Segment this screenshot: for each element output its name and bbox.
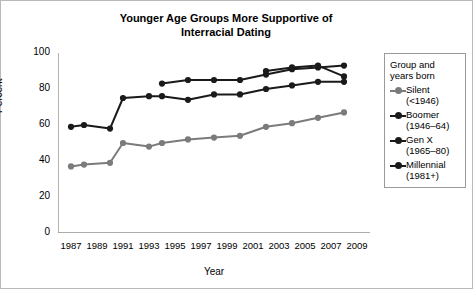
data-point	[237, 91, 243, 97]
legend-label: Silent(<1946)	[406, 84, 439, 106]
y-axis-tick-label: 60	[24, 118, 50, 129]
legend-label: Gen X(1965–80)	[406, 134, 449, 156]
data-point	[185, 136, 191, 142]
legend-marker-icon	[390, 135, 406, 146]
data-point	[146, 93, 152, 99]
data-point	[263, 124, 269, 130]
legend-title: Group and years born	[390, 59, 461, 81]
data-point	[185, 97, 191, 103]
y-axis-tick-label: 80	[24, 82, 50, 93]
data-point	[237, 77, 243, 83]
chart-title-line-1: Younger Age Groups More Supportive of	[61, 11, 391, 25]
data-point	[341, 63, 347, 69]
x-axis-tick-label: 2009	[340, 240, 374, 251]
legend-marker-icon	[390, 160, 406, 171]
x-axis-title: Year	[58, 266, 370, 277]
legend-label-name: Millennial	[406, 159, 446, 170]
data-point	[211, 77, 217, 83]
legend-label-years: (1965–80)	[406, 145, 449, 156]
legend-item-boomer[interactable]: Boomer(1946–64)	[390, 109, 461, 131]
plot-area: 0204060801001987198919911993199519971999…	[58, 53, 370, 233]
legend-item-gen-x[interactable]: Gen X(1965–80)	[390, 134, 461, 156]
data-point	[289, 82, 295, 88]
legend-title-line-2: years born	[390, 70, 461, 81]
legend-label-name: Silent	[406, 84, 439, 95]
chart-title: Younger Age Groups More Supportive of In…	[61, 11, 391, 39]
data-point	[263, 68, 269, 74]
data-point	[341, 109, 347, 115]
legend-label: Millennial(1981+)	[406, 159, 446, 181]
data-point	[185, 77, 191, 83]
series-line-silent	[71, 112, 344, 166]
data-point	[341, 79, 347, 85]
legend-marker-icon	[390, 110, 406, 121]
y-axis-tick-label: 40	[24, 154, 50, 165]
data-point	[341, 73, 347, 79]
data-point	[159, 81, 165, 87]
y-axis-tick-label: 0	[24, 226, 50, 237]
data-point	[81, 122, 87, 128]
data-point	[315, 63, 321, 69]
legend-label-name: Gen X	[406, 134, 449, 145]
legend-label-name: Boomer	[406, 109, 449, 120]
chart-frame: Younger Age Groups More Supportive of In…	[0, 0, 473, 289]
data-point	[315, 115, 321, 121]
y-axis-tick-label: 100	[24, 46, 50, 57]
legend-item-millennial[interactable]: Millennial(1981+)	[390, 159, 461, 181]
data-point	[107, 126, 113, 132]
y-axis-tick-label: 20	[24, 190, 50, 201]
data-point	[315, 79, 321, 85]
data-point	[289, 64, 295, 70]
legend-title-line-1: Group and	[390, 59, 461, 70]
data-point	[120, 95, 126, 101]
data-point	[81, 162, 87, 168]
data-point	[289, 120, 295, 126]
data-point	[211, 91, 217, 97]
data-point	[107, 160, 113, 166]
chart-legend: Group and years born Silent(<1946)Boomer…	[384, 53, 466, 188]
legend-marker-icon	[390, 85, 406, 96]
legend-label-years: (<1946)	[406, 95, 439, 106]
data-point	[146, 144, 152, 150]
data-point	[120, 140, 126, 146]
legend-label-years: (1981+)	[406, 170, 446, 181]
data-point	[211, 135, 217, 141]
legend-items: Silent(<1946)Boomer(1946–64)Gen X(1965–8…	[390, 84, 461, 181]
data-point	[68, 163, 74, 169]
legend-item-silent[interactable]: Silent(<1946)	[390, 84, 461, 106]
data-point	[263, 86, 269, 92]
y-axis-title: Percent	[0, 79, 4, 113]
data-point	[68, 124, 74, 130]
data-point	[237, 133, 243, 139]
chart-svg	[58, 53, 370, 233]
legend-label: Boomer(1946–64)	[406, 109, 449, 131]
legend-label-years: (1946–64)	[406, 120, 449, 131]
data-point	[159, 93, 165, 99]
data-point	[159, 140, 165, 146]
chart-title-line-2: Interracial Dating	[61, 25, 391, 39]
